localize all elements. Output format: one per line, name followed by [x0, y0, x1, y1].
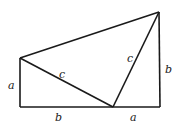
- label-right-b: b: [165, 63, 172, 76]
- left-hypotenuse-c: [20, 58, 113, 107]
- label-bottom-a: a: [130, 111, 137, 124]
- label-left-a: a: [8, 79, 15, 92]
- label-bottom-b: b: [55, 111, 62, 124]
- label-left-c: c: [59, 68, 65, 81]
- label-right-c: c: [127, 52, 133, 65]
- top-side: [20, 12, 159, 58]
- right-hypotenuse-c: [113, 12, 159, 107]
- trapezoid-diagram: a b a b c c: [0, 0, 178, 126]
- right-side-b: [159, 12, 160, 107]
